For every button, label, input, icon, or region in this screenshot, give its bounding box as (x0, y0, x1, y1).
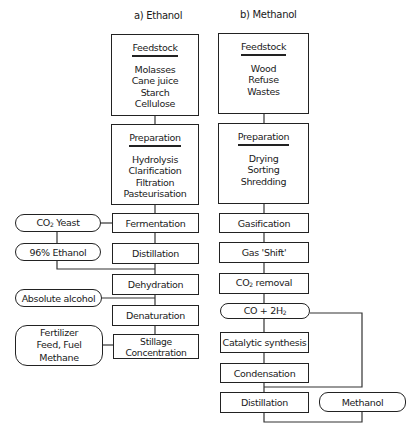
step-co2-removal: CO2 removal (219, 273, 309, 294)
ethanol-preparation-box: Preparation Hydrolysis Clarification Fil… (111, 124, 199, 205)
step-condensation: Condensation (220, 363, 309, 383)
step-dehydration: Dehydration (112, 274, 199, 295)
output-co2-yeast: CO2 Yeast (15, 214, 101, 232)
co2-yeast-label: CO2 Yeast (36, 217, 79, 230)
preparation-item: Hydrolysis (124, 154, 187, 165)
feedstock-item: Cellulose (132, 98, 179, 109)
syngas-co-2h2: CO + 2H2 (220, 303, 310, 319)
co2-removal-label: CO2 removal (236, 277, 292, 290)
feedstock-item: Molasses (132, 64, 179, 75)
step-gas-shift: Gas 'Shift' (219, 242, 309, 263)
output-byproducts: Fertilizer Feed, Fuel Methane (15, 325, 103, 366)
preparation-item: Shredding (241, 176, 287, 187)
step-fermentation: Fermentation (112, 213, 199, 233)
preparation-item: Drying (241, 153, 287, 164)
step-denaturation: Denaturation (112, 305, 199, 326)
output-absolute-alcohol: Absolute alcohol (15, 289, 102, 307)
feedstock-item: Starch (132, 87, 179, 98)
methanol-title: b) Methanol (240, 9, 297, 20)
step-gasification: Gasification (219, 213, 309, 233)
methanol-preparation-box: Preparation Drying Sorting Shredding (218, 123, 309, 204)
output-96-ethanol: 96% Ethanol (15, 243, 101, 261)
step-stillage-concentration: Stillage Concentration (113, 334, 199, 359)
ethanol-title: a) Ethanol (134, 10, 182, 21)
ethanol-feedstock-heading: Feedstock (132, 42, 177, 57)
step-distillation-ethanol: Distillation (112, 243, 199, 264)
feedstock-item: Refuse (247, 74, 279, 85)
byproduct-item: Feed, Fuel (36, 339, 81, 352)
methanol-preparation-heading: Preparation (238, 131, 290, 146)
preparation-item: Filtration (124, 177, 187, 188)
syngas-label: CO + 2H2 (244, 305, 287, 318)
methanol-feedstock-heading: Feedstock (241, 41, 286, 56)
feedstock-item: Cane juice (132, 75, 179, 86)
feedstock-item: Wood (247, 63, 279, 74)
preparation-item: Pasteurisation (124, 188, 187, 199)
step-catalytic-synthesis: Catalytic synthesis (220, 332, 309, 353)
ethanol-preparation-heading: Preparation (129, 132, 181, 147)
preparation-item: Sorting (241, 164, 287, 175)
preparation-item: Clarification (124, 165, 187, 176)
byproduct-item: Methane (39, 352, 78, 365)
output-methanol: Methanol (319, 392, 406, 412)
feedstock-item: Wastes (247, 86, 279, 97)
ethanol-feedstock-box: Feedstock Molasses Cane juice Starch Cel… (111, 34, 199, 116)
step-distillation-methanol: Distillation (220, 392, 309, 413)
byproduct-item: Fertilizer (40, 327, 78, 340)
methanol-feedstock-box: Feedstock Wood Refuse Wastes (218, 33, 309, 114)
